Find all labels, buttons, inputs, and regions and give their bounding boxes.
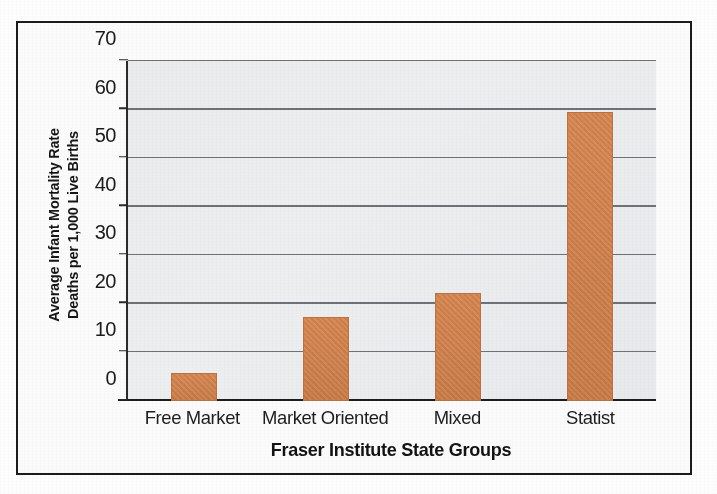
y-axis-tick-mark [119,107,128,109]
bar-series [128,61,656,401]
y-axis-tick-label: 50 [95,124,116,147]
y-axis-title-line-1: Average Infant Mortality Rate [45,128,62,322]
y-axis-tick-mark [119,156,128,158]
y-axis-tick-mark [119,302,128,304]
chart-figure-frame: Average Infant Mortality Rate Deaths per… [16,21,692,475]
y-axis-title: Average Infant Mortality Rate Deaths per… [40,65,86,385]
x-axis-tick-labels: Free MarketMarket OrientedMixedStatist [126,407,656,429]
y-axis-tick-label: 10 [95,318,116,341]
y-axis-tick-label: 60 [95,75,116,98]
y-axis-tick-mark [119,399,128,401]
x-axis-title: Fraser Institute State Groups [139,439,643,461]
y-axis-tick-mark [119,204,128,206]
bar-mixed[interactable] [435,293,481,401]
x-axis-tick-label: Market Oriented [260,407,389,429]
y-axis-tick-mark [119,59,128,61]
x-axis-tick-label: Statist [525,407,654,429]
bar-slot [260,61,392,401]
x-axis-tick-label: Mixed [393,407,522,429]
y-axis-tick-label: 70 [95,27,116,50]
y-axis-tick-label: 30 [95,221,116,244]
chart-page: Average Infant Mortality Rate Deaths per… [0,0,717,494]
bar-statist[interactable] [567,112,613,401]
y-axis-tick-mark [119,350,128,352]
bar-slot [392,61,524,401]
y-axis-tick-label: 20 [95,269,116,292]
y-axis-tick-mark [119,253,128,255]
y-axis-title-line-2: Deaths per 1,000 Live Births [64,131,81,319]
plot-region: 010203040506070 [126,61,656,401]
y-axis-tick-label: 0 [105,367,116,390]
bar-slot [128,61,260,401]
bar-slot [524,61,656,401]
x-axis-tick-label: Free Market [128,407,257,429]
bar-market-oriented[interactable] [303,317,349,402]
plot-area: 010203040506070 [126,61,656,401]
y-axis-tick-label: 40 [95,172,116,195]
bar-free-market[interactable] [171,373,217,401]
